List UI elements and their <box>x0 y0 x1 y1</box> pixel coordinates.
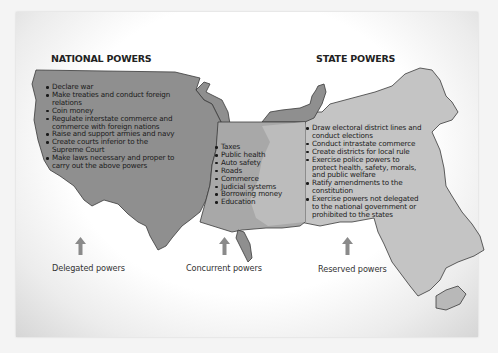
state-powers-list: Draw electoral district lines and conduc… <box>305 124 423 219</box>
list-item: Create courts inferior to the Supreme Co… <box>45 138 180 154</box>
delegated-powers-label: Delegated powers <box>52 263 125 273</box>
reserved-powers-label: Reserved powers <box>318 264 387 274</box>
reserved-arrow-icon <box>342 237 353 255</box>
concurrent-powers-label: Concurrent powers <box>186 263 262 273</box>
list-item: Regulate interstate commerce and commerc… <box>45 115 180 131</box>
concurrent-powers-list: Taxes Public health Auto safety Roads Co… <box>214 143 282 206</box>
list-item: Make treaties and conduct foreign relati… <box>45 91 180 107</box>
island <box>436 286 466 310</box>
list-item: Make laws necessary and proper to carry … <box>45 154 180 170</box>
list-item: Draw electoral district lines and conduc… <box>305 124 423 140</box>
concurrent-arrow-icon <box>219 237 230 255</box>
national-powers-heading: NATIONAL POWERS <box>51 53 151 64</box>
florida <box>236 230 252 262</box>
national-powers-list: Declare war Make treaties and conduct fo… <box>45 83 180 170</box>
list-item: Ratify amendments to the constitution <box>305 179 423 195</box>
list-item: Exercise police powers to protect health… <box>305 156 423 180</box>
list-item: Education <box>214 198 282 206</box>
list-item: Exercise powers not delegated to the nat… <box>305 195 423 219</box>
state-powers-heading: STATE POWERS <box>316 53 395 64</box>
delegated-arrow-icon <box>75 237 86 255</box>
